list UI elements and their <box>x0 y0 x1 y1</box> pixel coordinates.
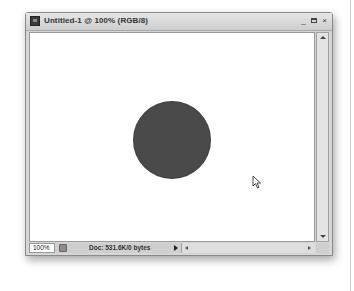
status-menu-arrow-icon[interactable] <box>174 245 178 251</box>
vertical-scrollbar[interactable] <box>316 32 329 242</box>
scroll-left-arrow-icon[interactable] <box>185 246 188 250</box>
document-size-info: Doc: 531.6K/0 bytes <box>89 244 150 252</box>
scroll-right-arrow-icon[interactable] <box>308 246 311 250</box>
horizontal-scrollbar[interactable] <box>181 243 315 253</box>
page-edge-rule <box>350 0 351 291</box>
window-title: Untitled-1 @ 100% (RGB/8) <box>44 16 148 25</box>
resize-corner[interactable] <box>316 243 329 253</box>
photoshop-document-icon <box>30 16 40 26</box>
minimize-button[interactable]: _ <box>299 16 308 25</box>
maximize-button[interactable] <box>309 16 318 25</box>
status-info-icon[interactable] <box>59 244 67 252</box>
gray-circle-shape[interactable] <box>133 101 211 179</box>
scroll-up-arrow-icon[interactable] <box>320 36 326 39</box>
zoom-level-field[interactable]: 100% <box>29 243 55 253</box>
status-bar: 100% Doc: 531.6K/0 bytes <box>29 243 315 253</box>
close-button[interactable]: × <box>320 16 329 25</box>
mouse-pointer-icon <box>252 175 262 189</box>
maximize-icon <box>311 18 317 23</box>
scroll-down-arrow-icon[interactable] <box>320 235 326 238</box>
document-canvas[interactable] <box>29 32 315 242</box>
title-bar[interactable]: Untitled-1 @ 100% (RGB/8) _ × <box>26 13 332 31</box>
document-window: Untitled-1 @ 100% (RGB/8) _ × 100% Doc: … <box>25 12 333 256</box>
